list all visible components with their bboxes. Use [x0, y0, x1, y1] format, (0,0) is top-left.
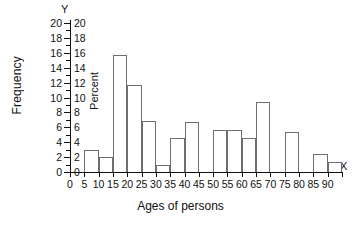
y-axis-line [70, 20, 71, 173]
y-tick [64, 23, 70, 24]
x-tick [270, 172, 271, 177]
y-tick [64, 98, 70, 99]
histogram-bar [156, 165, 170, 172]
x-tick-label: 65 [250, 179, 262, 190]
x-tick-label: 20 [121, 179, 133, 190]
histogram-bar [185, 122, 199, 172]
x-tick-label: 60 [236, 179, 248, 190]
x-tick [185, 172, 186, 177]
y-tick [64, 157, 70, 158]
y-tick-label: 10 [40, 93, 62, 103]
x-tick [285, 172, 286, 177]
x-tick-label: 50 [207, 179, 219, 190]
y-tick [64, 83, 70, 84]
y-tick-label: 12 [40, 78, 62, 88]
y-tick-label: 14 [40, 63, 62, 73]
y-tick [64, 142, 70, 143]
y-tick [64, 127, 70, 128]
y-tick-label: 4 [40, 137, 62, 147]
x-tick [142, 172, 143, 177]
y-tick [64, 38, 70, 39]
x-axis-title: Ages of persons [0, 199, 361, 213]
x-tick [113, 172, 114, 177]
histogram-bar [170, 138, 184, 172]
x-tick [256, 172, 257, 177]
x-tick-label: 75 [279, 179, 291, 190]
y-tick-minor [66, 30, 70, 31]
secondary-y-tick-label: 18 [74, 33, 92, 43]
x-axis-line [70, 172, 342, 173]
x-tick [242, 172, 243, 177]
x-tick [127, 172, 128, 177]
x-tick [328, 172, 329, 177]
secondary-y-tick-label: 12 [74, 78, 92, 88]
x-tick-label: 90 [322, 179, 334, 190]
x-tick [313, 172, 314, 177]
x-tick-label: 25 [136, 179, 148, 190]
y-axis-letter: Y [61, 3, 68, 15]
x-tick [70, 172, 71, 177]
histogram-bar [227, 130, 241, 172]
y-tick-minor [66, 135, 70, 136]
secondary-y-tick-label: 6 [74, 122, 92, 132]
histogram-bar [242, 138, 256, 172]
x-tick-label: 35 [164, 179, 176, 190]
y-tick-label: 6 [40, 122, 62, 132]
y-tick-minor [66, 60, 70, 61]
histogram-bar [285, 132, 299, 172]
secondary-y-tick-label: 14 [74, 63, 92, 73]
y-tick-minor [66, 105, 70, 106]
y-tick-label: 0 [40, 167, 62, 177]
y-axis-title: Frequency [10, 56, 26, 115]
y-tick-minor [66, 75, 70, 76]
x-tick [213, 172, 214, 177]
x-tick [227, 172, 228, 177]
histogram-bar [213, 130, 227, 172]
x-tick [199, 172, 200, 177]
histogram-bar [313, 154, 327, 172]
y-tick-minor [66, 90, 70, 91]
histogram-bar [328, 162, 342, 172]
y-tick-minor [66, 165, 70, 166]
histogram-bar [142, 121, 156, 172]
x-tick-label: 5 [81, 179, 87, 190]
x-tick [156, 172, 157, 177]
x-tick [299, 172, 300, 177]
y-tick [64, 112, 70, 113]
y-tick-minor [66, 120, 70, 121]
histogram-bar [256, 102, 270, 172]
x-tick-label: 70 [265, 179, 277, 190]
x-tick [99, 172, 100, 177]
y-tick-label: 8 [40, 107, 62, 117]
y-tick [64, 53, 70, 54]
x-tick-label: 55 [222, 179, 234, 190]
secondary-y-tick-label: 4 [74, 137, 92, 147]
x-tick-label: 45 [193, 179, 205, 190]
secondary-y-tick-label: 16 [74, 48, 92, 58]
histogram-bar [84, 150, 98, 172]
secondary-y-tick-label: 8 [74, 107, 92, 117]
secondary-y-tick-label: 20 [74, 18, 92, 28]
x-tick [84, 172, 85, 177]
x-tick-label: 80 [293, 179, 305, 190]
y-tick-minor [66, 150, 70, 151]
histogram-chart: Y X Frequency Percent Ages of persons 02… [0, 0, 361, 234]
x-tick-label: 40 [179, 179, 191, 190]
y-tick-label: 16 [40, 48, 62, 58]
y-tick-minor [66, 45, 70, 46]
x-tick [170, 172, 171, 177]
histogram-bar [113, 55, 127, 172]
y-tick-label: 18 [40, 33, 62, 43]
x-tick-label: 85 [308, 179, 320, 190]
x-tick-label: 30 [150, 179, 162, 190]
x-tick-label: 15 [107, 179, 119, 190]
secondary-y-tick-label: 10 [74, 93, 92, 103]
x-tick-label: 0 [67, 179, 73, 190]
y-tick-label: 2 [40, 152, 62, 162]
histogram-bar [127, 85, 141, 172]
histogram-bar [99, 157, 113, 172]
x-tick [342, 172, 343, 177]
y-tick [64, 68, 70, 69]
y-tick-label: 20 [40, 18, 62, 28]
x-tick-label: 10 [93, 179, 105, 190]
